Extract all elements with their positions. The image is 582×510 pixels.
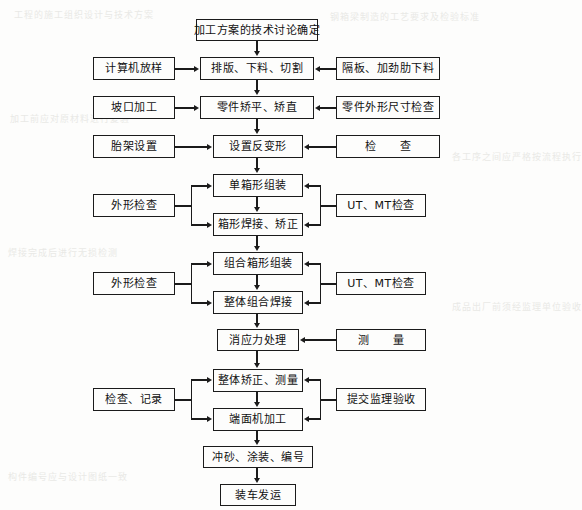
- arrowhead-left: [304, 222, 309, 228]
- arrowhead-down: [254, 285, 260, 290]
- connector-n12-n13: [256, 468, 257, 478]
- connector-r03-n04: [309, 146, 336, 147]
- node-computer-lofting[interactable]: 计算机放样: [93, 57, 175, 80]
- arrowhead-right: [194, 105, 199, 111]
- arrowhead-down: [254, 207, 260, 212]
- connector-l04-to-n05: [191, 185, 207, 186]
- node-sandblast-paint-number[interactable]: 冲砂、涂装、编号: [203, 446, 313, 468]
- connector-l06-riser: [191, 379, 192, 420]
- node-combined-box-assembly[interactable]: 组合箱形组装: [213, 252, 303, 275]
- arrowhead-right: [207, 261, 212, 267]
- node-loading-shipment[interactable]: 装车发运: [220, 484, 296, 506]
- arrowhead-right: [207, 222, 212, 228]
- connector-r04-trunk: [320, 205, 336, 206]
- node-end-face-machining[interactable]: 端面机加工: [213, 408, 303, 431]
- connector-r05-to-n07: [309, 263, 321, 264]
- arrowhead-left: [315, 66, 320, 72]
- arrowhead-down: [254, 168, 260, 173]
- node-preset-deformation[interactable]: 设置反变形: [213, 135, 303, 158]
- ghost-text-line: 焊接完成后进行无损检测: [8, 246, 118, 259]
- node-measurement[interactable]: 测 量: [336, 329, 426, 351]
- arrowhead-down: [254, 90, 260, 95]
- arrowhead-right: [194, 66, 199, 72]
- connector-l02-n03: [175, 107, 194, 108]
- connector-l05-trunk: [175, 283, 192, 284]
- connector-l04-riser: [191, 185, 192, 226]
- node-shape-inspection-1[interactable]: 外形检查: [93, 194, 175, 217]
- connector-r05-to-n08: [309, 302, 321, 303]
- ghost-text-line: 钢箱梁制造的工艺要求及检验标准: [330, 10, 480, 23]
- ghost-text-line: 成品出厂前须经监理单位验收: [452, 300, 582, 313]
- connector-n09-n10: [256, 351, 257, 363]
- arrowhead-down: [254, 402, 260, 407]
- connector-r07-riser: [320, 379, 321, 420]
- ghost-text-line: 构件编号应与设计图纸一致: [8, 470, 128, 483]
- connector-l05-riser: [191, 263, 192, 304]
- arrowhead-down: [254, 323, 260, 328]
- arrowhead-down: [254, 440, 260, 445]
- arrowhead-left: [300, 337, 305, 343]
- connector-n11-n12: [256, 431, 257, 440]
- arrowhead-right: [207, 416, 212, 422]
- node-technical-discussion[interactable]: 加工方案的技术讨论确定: [196, 19, 318, 41]
- node-jig-frame-setup[interactable]: 胎架设置: [93, 135, 175, 158]
- arrowhead-left: [304, 144, 309, 150]
- node-inspection-1[interactable]: 检 查: [336, 135, 440, 158]
- arrowhead-left: [304, 377, 309, 383]
- connector-r01-n02: [320, 68, 336, 69]
- connector-r06-n09: [305, 339, 336, 340]
- ghost-text-line: 工程的施工组织设计与技术方案: [14, 8, 154, 21]
- arrowhead-down: [254, 51, 260, 56]
- connector-l03-n04: [175, 146, 207, 147]
- node-single-box-assembly[interactable]: 单箱形组装: [213, 174, 303, 197]
- arrowhead-left: [315, 105, 320, 111]
- node-groove-machining[interactable]: 坡口加工: [93, 96, 175, 119]
- node-part-flattening[interactable]: 零件矫平、矫直: [200, 96, 314, 119]
- connector-r07-trunk: [320, 399, 336, 400]
- connector-r05-riser: [320, 263, 321, 304]
- node-box-welding-correction[interactable]: 箱形焊接、矫正: [213, 213, 303, 236]
- node-diaphragm-stiffener-cutting[interactable]: 隔板、加劲肋下料: [336, 57, 440, 80]
- arrowhead-left: [304, 300, 309, 306]
- connector-n10-n11: [256, 392, 257, 402]
- connector-l01-n02: [175, 68, 194, 69]
- connector-r04-to-n05: [309, 185, 321, 186]
- connector-l04-to-n06: [191, 224, 207, 225]
- node-inspection-records[interactable]: 检查、记录: [93, 388, 175, 411]
- arrowhead-right: [207, 144, 212, 150]
- node-overall-combined-welding[interactable]: 整体组合焊接: [213, 291, 303, 314]
- arrowhead-down: [254, 363, 260, 368]
- connector-l05-to-n08: [191, 302, 207, 303]
- node-layout-cutting[interactable]: 排版、下料、切割: [200, 57, 314, 80]
- connector-r05-trunk: [320, 283, 336, 284]
- connector-r07-to-n10: [309, 379, 321, 380]
- connector-r02-n03: [320, 107, 336, 108]
- arrowhead-left: [304, 416, 309, 422]
- connector-l04-trunk: [175, 205, 192, 206]
- arrowhead-right: [207, 300, 212, 306]
- arrowhead-down: [254, 478, 260, 483]
- connector-l06-trunk: [175, 399, 192, 400]
- node-part-dimension-check[interactable]: 零件外形尺寸检查: [336, 96, 440, 119]
- node-overall-correction-measure[interactable]: 整体矫正、测量: [213, 369, 303, 392]
- connector-l05-to-n07: [191, 263, 207, 264]
- arrowhead-left: [304, 183, 309, 189]
- arrowhead-right: [207, 183, 212, 189]
- node-stress-relief[interactable]: 消应力处理: [217, 329, 299, 351]
- connector-r04-riser: [320, 185, 321, 226]
- arrowhead-down: [254, 246, 260, 251]
- node-ut-mt-inspection-2[interactable]: UT、MT检查: [336, 272, 426, 295]
- connector-l06-to-n10: [191, 379, 207, 380]
- connector-l06-to-n11: [191, 418, 207, 419]
- node-shape-inspection-2[interactable]: 外形检查: [93, 272, 175, 295]
- arrowhead-right: [207, 377, 212, 383]
- connector-r04-to-n06: [309, 224, 321, 225]
- arrowhead-left: [304, 261, 309, 267]
- node-ut-mt-inspection-1[interactable]: UT、MT检查: [336, 194, 426, 217]
- ghost-text-line: 各工序之间应严格按流程执行: [452, 150, 582, 163]
- node-submit-supervision-acceptance[interactable]: 提交监理验收: [336, 388, 426, 411]
- arrowhead-down: [254, 129, 260, 134]
- connector-r07-to-n11: [309, 418, 321, 419]
